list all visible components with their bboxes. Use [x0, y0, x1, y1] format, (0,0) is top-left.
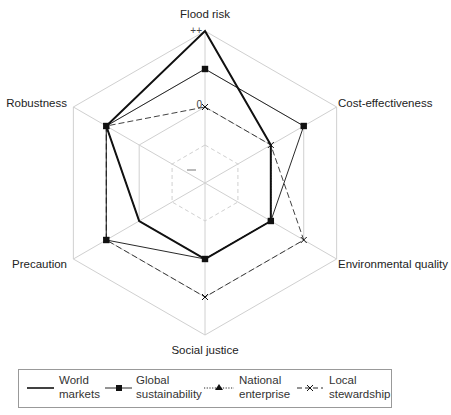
marker-square: [103, 237, 109, 243]
radar-chart: Flood riskCost-effectivenessEnvironmenta…: [0, 0, 451, 415]
marker-square: [202, 66, 208, 72]
svg-text:sustainability: sustainability: [136, 388, 202, 400]
axis-label-precaution: Precaution: [12, 258, 67, 270]
svg-text:World: World: [59, 374, 89, 386]
svg-text:National: National: [239, 374, 281, 386]
axis-label-flood-risk: Flood risk: [180, 8, 230, 20]
series-national-enterprise: [106, 31, 271, 259]
legend: World markets Global sustainability Nati…: [18, 369, 392, 408]
axis-label-social-justice: Social justice: [171, 344, 238, 356]
axis-label-robustness: Robustness: [6, 97, 67, 109]
axis-labels: Flood riskCost-effectivenessEnvironmenta…: [6, 8, 448, 356]
radar-grid: [73, 31, 336, 335]
series-world-markets: [106, 31, 271, 259]
legend-local-stewardship: Local stewardship: [297, 374, 390, 400]
scale-label-outer: ++: [190, 25, 202, 36]
svg-text:Local: Local: [329, 374, 357, 386]
axis-label-cost-effectiveness: Cost-effectiveness: [338, 97, 433, 109]
marker-square: [301, 123, 307, 129]
legend-world-markets: World markets: [27, 374, 100, 400]
legend-national-enterprise: National enterprise: [204, 374, 290, 400]
axis-label-environmental-quality: Environmental quality: [338, 258, 448, 270]
svg-text:enterprise: enterprise: [239, 388, 290, 400]
svg-text:stewardship: stewardship: [329, 388, 390, 400]
legend-global-sustainability: Global sustainability: [105, 374, 202, 400]
svg-text:markets: markets: [59, 388, 100, 400]
scale-label-mid: 0: [196, 99, 202, 110]
svg-text:Global: Global: [136, 374, 169, 386]
